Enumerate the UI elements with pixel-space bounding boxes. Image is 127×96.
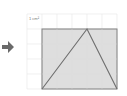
area-grid-diagram xyxy=(0,0,127,96)
unit-label: 1 cm² xyxy=(29,16,39,21)
